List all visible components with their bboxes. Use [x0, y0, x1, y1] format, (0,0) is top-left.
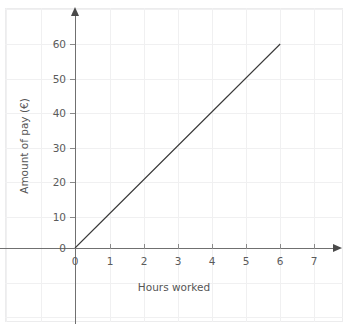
x-tick-label: 7	[304, 255, 324, 267]
y-tick-label: 60	[44, 38, 66, 50]
y-tick-label: 20	[44, 176, 66, 188]
y-tick-label: 50	[44, 73, 66, 85]
labels: 0 1 2 3 4 5 6 7 0 10 20 30 40 50 60 Hour…	[0, 0, 348, 324]
y-tick-label: 30	[44, 142, 66, 154]
x-tick-label: 6	[270, 255, 290, 267]
x-tick-label: 0	[65, 255, 85, 267]
x-tick-label: 5	[236, 255, 256, 267]
y-tick-label: 40	[44, 107, 66, 119]
y-tick-label: 0	[44, 242, 66, 254]
x-tick-label: 3	[168, 255, 188, 267]
chart-screenshot: 0 1 2 3 4 5 6 7 0 10 20 30 40 50 60 Hour…	[0, 0, 348, 324]
x-axis-title: Hours worked	[0, 281, 348, 293]
x-tick-label: 2	[134, 255, 154, 267]
y-axis-title: Amount of pay (€)	[18, 76, 30, 216]
x-tick-label: 4	[202, 255, 222, 267]
x-tick-label: 1	[100, 255, 120, 267]
y-tick-label: 10	[44, 211, 66, 223]
